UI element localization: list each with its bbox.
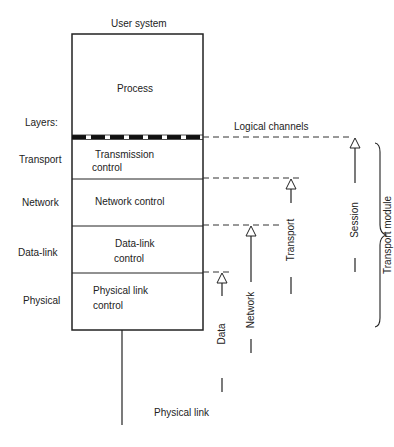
transport-module-label: Transport module: [382, 190, 394, 280]
channel-label-session: Session: [349, 195, 361, 245]
transmission-control-line1: Transmission: [95, 148, 154, 161]
layers-heading: Layers:: [25, 116, 58, 129]
network-control-label: Network control: [95, 195, 164, 208]
layer-label-physical: Physical: [23, 294, 60, 307]
physical-link-control-line2: control: [93, 299, 123, 312]
layer-label-datalink: Data-link: [18, 246, 57, 259]
physical-link-label: Physical link: [154, 406, 209, 419]
datalink-control-line1: Data-link: [115, 237, 154, 250]
layer-label-network: Network: [22, 196, 59, 209]
transmission-control-line2: control: [92, 161, 122, 174]
channel-label-transport: Transport: [285, 212, 297, 268]
channel-label-network: Network: [245, 285, 257, 335]
physical-link-control-line1: Physical link: [93, 284, 148, 297]
layer-label-transport: Transport: [19, 153, 61, 166]
process-label: Process: [117, 82, 153, 95]
logical-channels-label: Logical channels: [234, 120, 309, 133]
datalink-control-line2: control: [114, 252, 144, 265]
channel-label-data: Data: [216, 318, 228, 350]
user-system-title: User system: [111, 17, 167, 30]
